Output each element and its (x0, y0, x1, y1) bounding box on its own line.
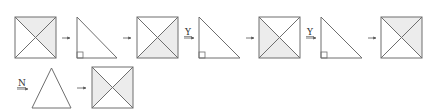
right-triangle-2 (199, 17, 240, 58)
flow-diagram: Y Y N (0, 0, 433, 110)
right-triangle-3 (321, 17, 362, 58)
square-2 (137, 17, 178, 58)
square-1 (15, 17, 56, 58)
square-5 (92, 67, 133, 108)
arrow-label-yes-2: Y (306, 27, 314, 37)
arrow-no: N (17, 78, 28, 89)
right-triangle-1 (77, 17, 117, 58)
right-angle-mark (77, 52, 83, 58)
arrow-label-no: N (18, 78, 26, 88)
right-angle-mark (199, 52, 205, 58)
square-3 (259, 17, 300, 58)
arrow-label-yes-1: Y (184, 27, 192, 37)
square-4 (381, 17, 422, 58)
arrow-yes-2: Y (306, 27, 316, 38)
square-5-right-shade (113, 67, 134, 108)
arrow-yes-1: Y (184, 27, 194, 38)
right-angle-mark (321, 52, 327, 58)
isosceles-triangle (32, 68, 71, 108)
square-5-left-shade (92, 67, 113, 108)
